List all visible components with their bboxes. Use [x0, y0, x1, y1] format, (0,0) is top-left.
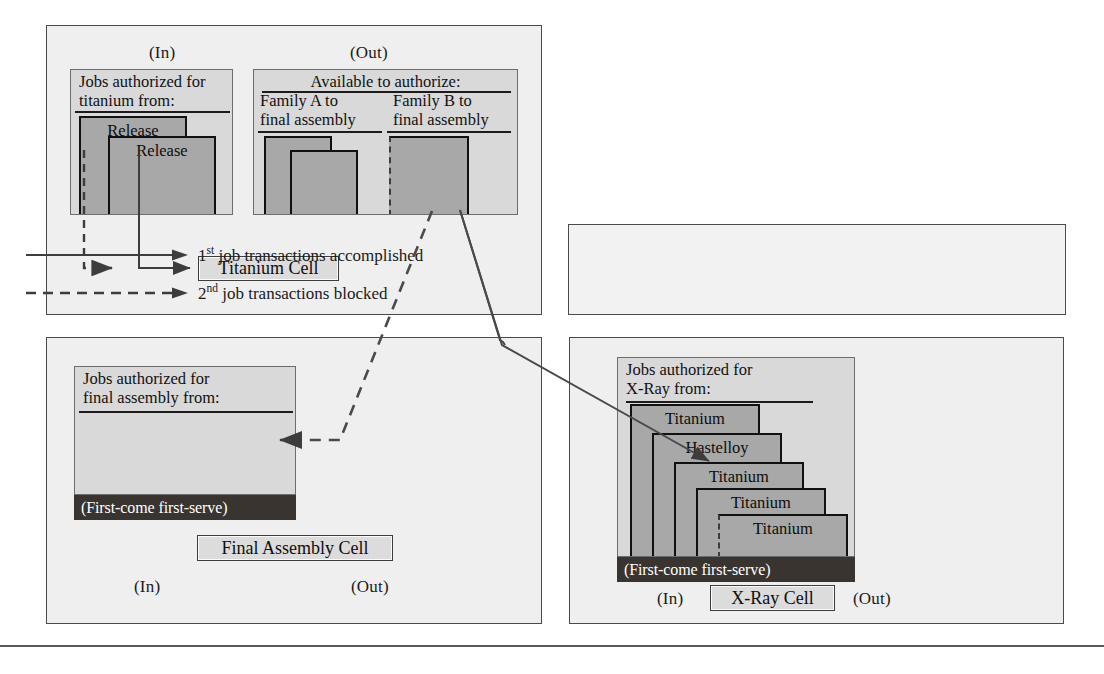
plate-xray-cell[interactable]: X-Ray Cell [710, 585, 835, 611]
titanium-in-label: (In) [149, 44, 175, 62]
board-rule [75, 111, 230, 113]
board-titanium-in[interactable]: Jobs authorized for titanium from: Relea… [70, 69, 233, 215]
queue-rule-final-assembly: (First-come first-serve) [74, 495, 296, 520]
board-rule [626, 401, 813, 403]
xray-in-label: (In) [657, 590, 683, 608]
legend-label-solid: 1st job transactions accomplished [198, 244, 423, 266]
column-header-family-a: Family A to final assembly [260, 92, 356, 129]
dashed-arrow-icon [26, 285, 188, 301]
final-assembly-in-label: (In) [134, 578, 160, 596]
job-card-release-2[interactable]: Release [108, 136, 216, 215]
job-card-label: Hastelloy [654, 438, 780, 458]
board-final-assembly-in[interactable]: Jobs authorized for final assembly from: [74, 366, 296, 495]
legend-desc: job transactions accomplished [214, 246, 423, 265]
column-rule-family-a [258, 131, 382, 133]
column-rule-family-b [387, 131, 511, 133]
final-assembly-out-label: (Out) [351, 578, 389, 596]
job-card-label: Release [110, 141, 214, 161]
titanium-out-label: (Out) [350, 44, 388, 62]
solid-arrow-icon [26, 247, 188, 263]
job-card-label: Titanium [632, 409, 758, 429]
legend-label-dashed: 2nd job transactions blocked [198, 282, 388, 304]
plate-final-assembly-cell[interactable]: Final Assembly Cell [197, 535, 393, 561]
job-card-label: Titanium [698, 493, 824, 513]
board-xray-in[interactable]: Jobs authorized for X-Ray from: Titanium… [617, 357, 855, 557]
job-card-family-a-2[interactable] [290, 150, 358, 215]
job-card-xray-5[interactable]: Titanium [718, 514, 848, 557]
diagram-canvas: (In) (Out) Jobs authorized for titanium … [0, 0, 1104, 674]
board-rule [79, 411, 293, 413]
job-card-family-b-1[interactable] [389, 136, 469, 215]
panel-legend [568, 224, 1066, 315]
board-xray-title: Jobs authorized for X-Ray from: [626, 361, 752, 398]
board-final-assembly-title: Jobs authorized for final assembly from: [83, 370, 220, 407]
legend-ordinal: 1 [198, 246, 207, 265]
board-titanium-in-title: Jobs authorized for titanium from: [79, 73, 205, 110]
xray-out-label: (Out) [853, 590, 891, 608]
legend-desc: job transactions blocked [218, 284, 388, 303]
legend-row-solid: 1st job transactions accomplished [26, 242, 472, 268]
job-card-label: Titanium [720, 519, 846, 539]
legend-ordinal: 2 [198, 284, 207, 303]
job-card-label: Titanium [676, 467, 802, 487]
legend-ordinal-suffix: nd [207, 282, 219, 294]
footer-rule [0, 645, 1104, 647]
column-header-family-b: Family B to final assembly [393, 92, 489, 129]
board-titanium-out[interactable]: Available to authorize: Family A to fina… [253, 69, 518, 215]
board-titanium-out-title: Available to authorize: [254, 73, 517, 92]
queue-rule-xray: (First-come first-serve) [617, 557, 855, 582]
legend-row-dashed: 2nd job transactions blocked [26, 280, 472, 306]
